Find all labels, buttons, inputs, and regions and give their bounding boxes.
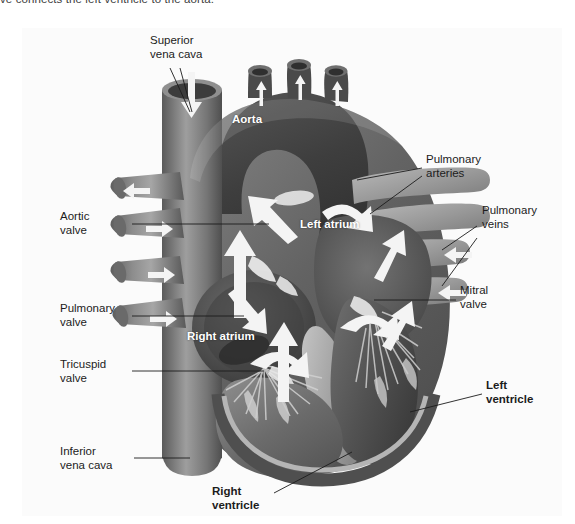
label-left-atrium: Left atrium	[300, 218, 359, 232]
label-pulmonary-veins: Pulmonary veins	[482, 204, 537, 231]
label-inferior-vena-cava: Inferior vena cava	[60, 445, 112, 472]
label-mitral-valve: Mitral valve	[460, 284, 488, 311]
label-aorta: Aorta	[232, 113, 262, 127]
heart-diagram-figure: Superior vena cava Aorta Pulmonary arter…	[22, 28, 562, 516]
label-right-ventricle: Right ventricle	[212, 485, 259, 512]
label-pulmonary-valve: Pulmonary valve	[60, 302, 115, 329]
label-pulmonary-arteries: Pulmonary arteries	[426, 153, 481, 180]
label-right-atrium: Right atrium	[187, 330, 255, 344]
label-tricuspid-valve: Tricuspid valve	[60, 358, 106, 385]
label-left-ventricle: Left ventricle	[486, 379, 533, 406]
heart-anatomy-svg	[22, 28, 562, 516]
figure-caption: ve connects the left ventricle to the ao…	[0, 0, 575, 7]
page-root: ve connects the left ventricle to the ao…	[0, 0, 575, 524]
label-aortic-valve: Aortic valve	[60, 210, 89, 237]
label-superior-vena-cava: Superior vena cava	[150, 34, 202, 61]
